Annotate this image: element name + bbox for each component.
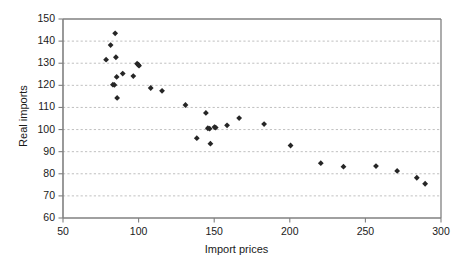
data-point-marker — [414, 175, 420, 181]
data-point-marker — [203, 110, 209, 116]
y-tick-label: 70 — [27, 189, 55, 201]
y-tick-label: 130 — [27, 56, 55, 68]
data-point-marker — [183, 102, 189, 108]
data-point-marker — [422, 181, 428, 187]
x-tick-label: 100 — [122, 225, 156, 237]
data-point-marker — [208, 141, 214, 147]
data-point-marker — [394, 168, 400, 174]
y-tick-label: 120 — [27, 78, 55, 90]
data-point-marker — [194, 135, 200, 141]
y-tick-label: 100 — [27, 123, 55, 135]
data-point-marker — [288, 143, 294, 149]
data-point-marker — [108, 42, 114, 48]
x-tick-label: 250 — [348, 225, 382, 237]
y-tick-label: 110 — [27, 100, 55, 112]
y-tick-label: 80 — [27, 167, 55, 179]
data-point-marker — [130, 73, 136, 79]
axis-frame — [63, 19, 441, 218]
x-tick-label: 50 — [46, 225, 80, 237]
y-tick-label: 140 — [27, 34, 55, 46]
data-point-marker — [261, 121, 267, 127]
data-point-marker — [113, 54, 119, 60]
gridlines — [63, 41, 441, 196]
data-points — [103, 30, 428, 186]
data-point-marker — [159, 88, 165, 94]
data-point-marker — [148, 85, 154, 91]
y-tick-label: 90 — [27, 145, 55, 157]
data-point-marker — [103, 57, 109, 63]
data-point-marker — [224, 122, 230, 128]
data-point-marker — [114, 95, 120, 101]
data-point-marker — [373, 163, 379, 169]
y-tick-label: 60 — [27, 211, 55, 223]
x-tick-label: 200 — [273, 225, 307, 237]
data-point-marker — [112, 30, 118, 36]
data-point-marker — [341, 164, 347, 170]
tick-marks — [59, 19, 442, 223]
scatter-chart: Real imports Import prices 6070809010011… — [0, 0, 473, 267]
data-point-marker — [114, 74, 120, 80]
y-tick-label: 150 — [27, 12, 55, 24]
x-axis-title: Import prices — [0, 243, 473, 255]
data-point-marker — [318, 160, 324, 166]
x-tick-label: 300 — [424, 225, 458, 237]
x-tick-label: 150 — [197, 225, 231, 237]
data-point-marker — [236, 115, 242, 121]
data-point-marker — [120, 71, 126, 77]
